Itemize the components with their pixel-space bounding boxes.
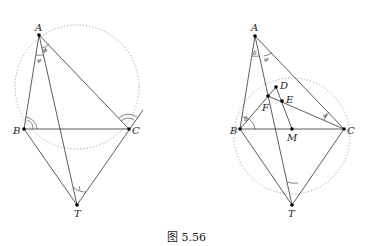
label-C: C [132, 125, 140, 136]
angle-mark-C-outer [119, 114, 137, 118]
segment-AC [255, 36, 344, 129]
figure-canvas: φ ϕ A B C T δ φ δ φ [0, 0, 369, 246]
label-T: T [288, 208, 296, 219]
point-A [253, 34, 257, 38]
label-T: T [74, 208, 82, 219]
point-C [342, 127, 346, 131]
label-A: A [34, 22, 42, 33]
segment-AT [39, 35, 77, 205]
point-F [266, 94, 270, 98]
angle-label-A-right: φ [264, 55, 269, 63]
angle-label-A-right: ϕ [43, 46, 47, 54]
segment-AC [39, 35, 129, 129]
angle-mark-C-inner [121, 118, 134, 121]
angle-label-C: φ [323, 111, 328, 119]
point-D [274, 85, 278, 89]
point-T [290, 203, 294, 207]
segment-FC [268, 96, 344, 129]
segment-AB [24, 35, 39, 129]
angle-label-A-left: φ [37, 56, 42, 64]
angle-mark-B-outer [249, 119, 255, 129]
segment-AT [255, 36, 292, 205]
point-B [238, 127, 242, 131]
label-M: M [286, 132, 298, 143]
point-E [280, 99, 284, 103]
label-D: D [279, 80, 288, 91]
point-B [22, 127, 26, 131]
label-F: F [261, 102, 270, 113]
angle-mark-T [287, 182, 298, 183]
label-B: B [229, 125, 237, 136]
point-T [75, 203, 79, 207]
point-C [127, 127, 131, 131]
label-E: E [285, 94, 294, 105]
label-C: C [347, 125, 355, 136]
point-M [290, 127, 294, 131]
segment-BT [24, 129, 77, 205]
angle-label-A-left: δ [253, 49, 257, 56]
angle-label-B: δ [244, 115, 248, 122]
figure-caption: 图 5.56 [167, 231, 206, 244]
left-figure: φ ϕ A B C T [12, 22, 143, 219]
segment-BT [240, 129, 292, 205]
angle-tick-T [79, 186, 80, 190]
label-B: B [12, 125, 20, 136]
segment-CT [292, 129, 344, 205]
point-A [37, 33, 41, 37]
right-figure: δ φ δ φ A B C T D E F M [229, 22, 355, 219]
label-A: A [250, 22, 258, 33]
circumcircle-left [15, 25, 139, 149]
